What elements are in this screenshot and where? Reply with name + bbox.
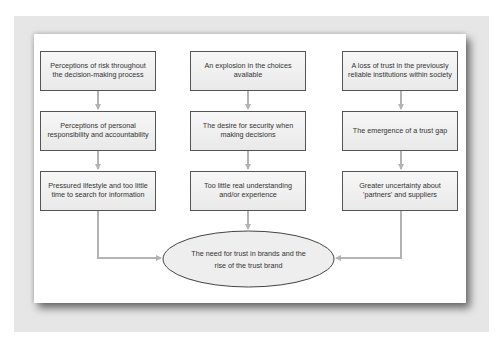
box-greater-uncertainty: Greater uncertainty about 'partners' and… [342, 171, 458, 211]
box-risk-perception: Perceptions of risk throughout the decis… [40, 51, 156, 91]
box-choice-explosion: An explosion in the choices available [190, 51, 306, 91]
box-little-understanding: Too little real understanding and/or exp… [190, 171, 306, 211]
box-pressured-lifestyle: Pressured lifestyle and too little time … [40, 171, 156, 211]
box-loss-of-trust: A loss of trust in the previously reliab… [342, 51, 458, 91]
outcome-label: The need for trust in brands and the ris… [190, 240, 307, 280]
box-personal-responsibility: Perceptions of personal responsibility a… [40, 111, 156, 151]
box-trust-gap: The emergence of a trust gap [342, 111, 458, 151]
box-desire-security: The desire for security when making deci… [190, 111, 306, 151]
